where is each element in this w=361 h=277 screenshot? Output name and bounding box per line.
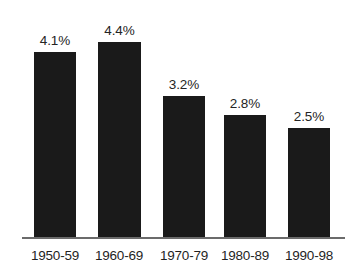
x-axis-line — [22, 237, 345, 239]
category-axis: 1950-59 1960-69 1970-79 1980-89 1990-98 — [0, 244, 361, 277]
bar[interactable] — [98, 42, 141, 238]
bar-value-label: 2.5% — [294, 109, 324, 124]
plot-area: 4.1% 4.4% 3.2% 2.8% 2.5% — [0, 0, 361, 238]
category-label: 1990-98 — [280, 248, 338, 263]
bar-chart: 4.1% 4.4% 3.2% 2.8% 2.5% 1950-59 1960-69… — [0, 0, 361, 277]
bar-group: 4.4% — [98, 0, 141, 238]
category-label: 1950-59 — [26, 248, 84, 263]
bar[interactable] — [288, 128, 330, 238]
bar-group: 3.2% — [163, 0, 205, 238]
bar-value-label: 3.2% — [169, 77, 199, 92]
bar-group: 2.8% — [224, 0, 266, 238]
category-label: 1970-79 — [155, 248, 213, 263]
bar-value-label: 4.1% — [40, 33, 70, 48]
bar[interactable] — [34, 52, 76, 238]
bar-group: 2.5% — [288, 0, 330, 238]
bar-value-label: 2.8% — [230, 96, 260, 111]
bar-group: 4.1% — [34, 0, 76, 238]
bar[interactable] — [163, 96, 205, 238]
category-label: 1960-69 — [90, 248, 148, 263]
category-label: 1980-89 — [216, 248, 274, 263]
bar[interactable] — [224, 115, 266, 238]
bar-value-label: 4.4% — [104, 23, 134, 38]
